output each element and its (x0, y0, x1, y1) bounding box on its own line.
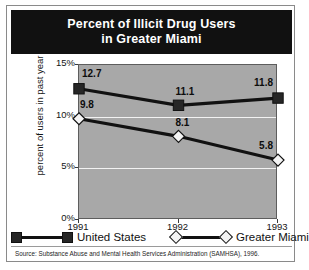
data-label-united-states-1991: 12.7 (82, 68, 101, 79)
legend-item-greater-miami[interactable]: Greater Miami (170, 228, 301, 246)
filled-square-marker[interactable] (74, 84, 84, 94)
y-tick-label-15: 15% (43, 57, 75, 68)
hollow-diamond-marker (219, 230, 233, 244)
y-tick-label-10: 10% (43, 109, 75, 120)
data-label-greater-miami-1993: 5.8 (259, 140, 273, 151)
legend-line-miami (170, 230, 232, 244)
source-text: Source: Substance Abuse and Mental Healt… (11, 250, 259, 257)
filled-square-marker[interactable] (173, 100, 183, 110)
legend-line-us (11, 230, 73, 244)
hollow-diamond-marker (169, 230, 183, 244)
filled-square-marker (62, 232, 73, 243)
legend-label-united-states: United States (77, 231, 146, 243)
filled-square-marker (11, 232, 22, 243)
hollow-diamond-marker[interactable] (173, 130, 185, 142)
data-label-united-states-1992: 11.1 (176, 86, 195, 97)
chart-title-line-2: in Greater Miami (101, 32, 201, 47)
hollow-diamond-marker[interactable] (272, 154, 284, 166)
data-label-greater-miami-1991: 9.8 (80, 99, 94, 110)
legend-item-united-states[interactable]: United States (11, 228, 146, 246)
chart-legend: United States Greater Miami (11, 228, 292, 246)
legend-line-segment-us (17, 236, 67, 239)
y-tick-label-5: 5% (43, 160, 75, 171)
chart-title-line-1: Percent of Illicit Drug Users (67, 17, 235, 32)
data-label-united-states-1993: 11.8 (254, 77, 273, 88)
y-axis-ticks: 15% 10% 5% 0% (39, 54, 75, 225)
data-label-greater-miami-1992: 8.1 (176, 117, 190, 128)
legend-label-greater-miami: Greater Miami (236, 231, 301, 243)
chart-plot-region: percent of users in past year 15% 10% 5%… (11, 54, 292, 225)
chart-title: Percent of Illicit Drug Users in Greater… (11, 10, 292, 54)
source-note: Source: Substance Abuse and Mental Healt… (11, 246, 292, 259)
filled-square-marker[interactable] (273, 93, 283, 103)
chart-figure: Percent of Illicit Drug Users in Greater… (6, 5, 295, 262)
